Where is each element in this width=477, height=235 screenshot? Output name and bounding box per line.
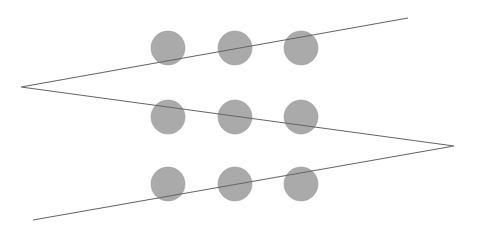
dot-3 [284,31,318,65]
dot-9 [284,167,318,201]
dot-5 [218,100,252,134]
dot-2 [218,31,252,65]
dot-6 [284,100,318,134]
dot-1 [151,31,185,65]
nine-dot-diagram [0,0,477,235]
